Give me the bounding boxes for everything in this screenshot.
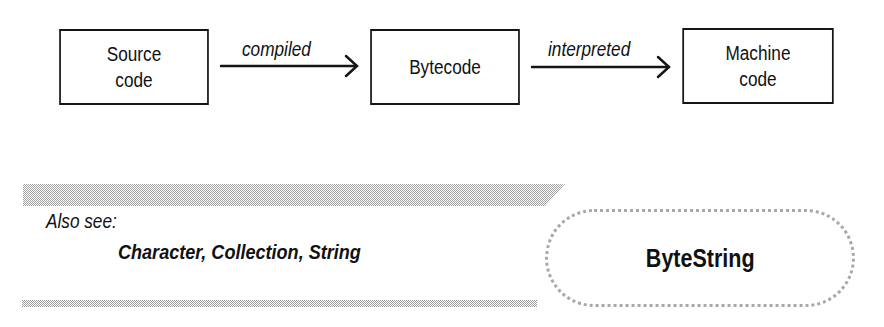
link-string[interactable]: String bbox=[309, 240, 361, 263]
link-character[interactable]: Character bbox=[118, 240, 201, 263]
also-see-label: Also see: bbox=[46, 210, 117, 233]
link-separator: , bbox=[299, 240, 309, 263]
bottom-dither-band bbox=[22, 300, 537, 307]
also-see-links: Character, Collection, String bbox=[118, 240, 361, 264]
topic-pill: ByteString bbox=[545, 209, 855, 307]
link-separator: , bbox=[201, 240, 211, 263]
topic-title: ByteString bbox=[646, 244, 755, 273]
link-collection[interactable]: Collection bbox=[211, 240, 298, 263]
